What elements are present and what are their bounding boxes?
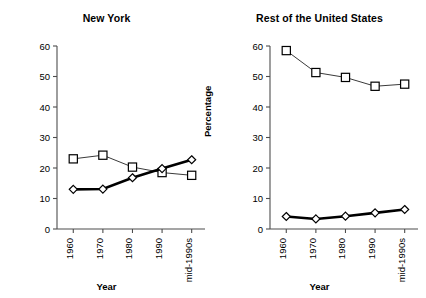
chart-panel-new-york: New York Percentage Year 010203040506019… <box>0 0 213 298</box>
y-tick-label: 0 <box>45 224 50 235</box>
y-tick-label: 30 <box>39 132 50 143</box>
data-point-square <box>312 68 320 76</box>
plot-area-left: 01020304050601960197019801990mid-1990s <box>0 0 213 298</box>
y-tick-label: 40 <box>39 102 50 113</box>
figure-container: New York Percentage Year 010203040506019… <box>0 0 426 298</box>
data-point-square <box>188 171 196 179</box>
chart-panel-rest-of-us: Rest of the United States Percentage Yea… <box>213 0 426 298</box>
data-point-diamond <box>371 209 379 217</box>
data-point-diamond <box>341 212 349 220</box>
y-tick-label: 0 <box>258 224 263 235</box>
x-tick-label: mid-1990s <box>183 238 194 283</box>
x-tick-label: 1980 <box>336 238 347 259</box>
data-point-square <box>371 82 379 90</box>
y-tick-label: 10 <box>39 193 50 204</box>
x-tick-label: 1970 <box>94 238 105 259</box>
x-tick-label: 1990 <box>366 238 377 259</box>
data-point-diamond <box>282 213 290 221</box>
data-point-square <box>282 46 290 54</box>
x-tick-label: mid-1990s <box>396 238 407 283</box>
x-tick-label: 1970 <box>307 238 318 259</box>
y-tick-label: 50 <box>252 71 263 82</box>
x-tick-label: 1990 <box>153 238 164 259</box>
data-point-diamond <box>99 185 107 193</box>
y-tick-label: 40 <box>252 102 263 113</box>
data-point-square <box>341 73 349 81</box>
x-tick-label: 1980 <box>123 238 134 259</box>
data-point-square <box>69 155 77 163</box>
x-tick-label: 1960 <box>64 238 75 259</box>
data-point-diamond <box>188 156 196 164</box>
y-tick-label: 60 <box>39 41 50 52</box>
y-tick-label: 60 <box>252 41 263 52</box>
y-tick-label: 20 <box>252 163 263 174</box>
y-tick-label: 20 <box>39 163 50 174</box>
data-point-diamond <box>312 215 320 223</box>
data-point-square <box>99 151 107 159</box>
x-tick-label: 1960 <box>277 238 288 259</box>
data-point-diamond <box>128 174 136 182</box>
data-point-diamond <box>401 205 409 213</box>
plot-area-right: 01020304050601960197019801990mid-1990s <box>213 0 426 298</box>
data-point-diamond <box>69 185 77 193</box>
y-tick-label: 50 <box>39 71 50 82</box>
y-tick-label: 10 <box>252 193 263 204</box>
data-point-square <box>128 163 136 171</box>
data-point-square <box>401 80 409 88</box>
y-tick-label: 30 <box>252 132 263 143</box>
